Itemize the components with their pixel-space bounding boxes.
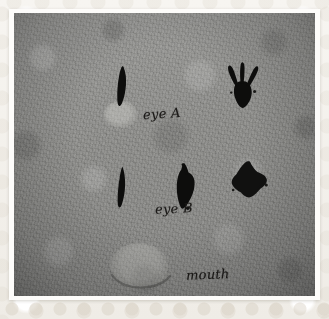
handwritten-label-mouth: mouth <box>186 266 230 283</box>
ink-blot-top-left <box>112 65 134 109</box>
ink-blot-bottom-right <box>228 159 270 201</box>
ink-blot-bottom-left <box>113 165 133 209</box>
mouth-curve-line <box>110 271 172 293</box>
handwritten-label-eye-b: eye B <box>155 200 194 217</box>
handwritten-label-eye-a: eye A <box>143 105 182 122</box>
paper-fibers <box>14 13 315 296</box>
ink-blot-top-right <box>221 61 263 111</box>
photo-frame: eye A eye B mouth <box>0 0 329 319</box>
photograph: eye A eye B mouth <box>14 13 315 296</box>
